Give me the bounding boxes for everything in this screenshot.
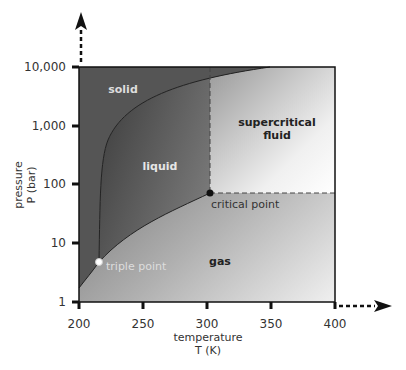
x-tick-label: 300 xyxy=(196,317,219,331)
triple-point-marker xyxy=(96,259,103,266)
liquid-label: liquid xyxy=(143,160,178,173)
y-axis-ticks xyxy=(72,67,79,302)
y-axis-arrow-icon xyxy=(75,12,87,30)
critical-point-marker xyxy=(207,190,214,197)
x-tick-label: 400 xyxy=(324,317,347,331)
triple-point-label: triple point xyxy=(106,260,167,273)
solid-label: solid xyxy=(108,83,138,96)
x-tick-label: 350 xyxy=(260,317,283,331)
x-axis-title-unit: T (K) xyxy=(194,344,221,357)
x-axis-arrow-icon xyxy=(374,300,392,312)
y-tick-label: 10,000 xyxy=(24,60,66,74)
x-axis-title: temperature xyxy=(173,331,242,344)
y-axis-title: pressure xyxy=(12,161,25,209)
fluid-label: fluid xyxy=(263,129,291,142)
x-axis-ticks xyxy=(79,302,335,309)
y-axis-title-unit: P (bar) xyxy=(25,167,38,204)
y-tick-label: 100 xyxy=(43,177,66,191)
y-tick-label: 1 xyxy=(58,295,66,309)
gas-label: gas xyxy=(209,255,231,268)
critical-point-label: critical point xyxy=(211,198,280,211)
y-tick-label: 10 xyxy=(51,236,66,250)
y-tick-label: 1,000 xyxy=(32,119,66,133)
x-tick-label: 250 xyxy=(132,317,155,331)
x-tick-label: 200 xyxy=(68,317,91,331)
supercritical-label: supercritical xyxy=(238,116,316,129)
phase-diagram: 1 10 100 1,000 10,000 200 250 300 350 40… xyxy=(0,0,406,370)
